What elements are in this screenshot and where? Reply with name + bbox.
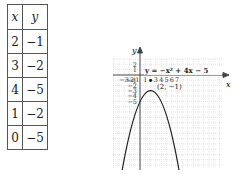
table-cell-y: −5 [23,78,48,102]
table-cell-x: 1 [8,102,23,126]
table-header-x: x [8,5,23,30]
table-cell-x: 4 [8,78,23,102]
table-row: 4 −5 [8,78,48,102]
table-row: 2 −1 [8,30,48,54]
svg-text:−5: −5 [127,98,137,106]
table-cell-y: −1 [23,30,48,54]
equation-label: y = −x² + 4x − 5 [144,66,208,75]
svg-text:1: 1 [143,76,147,84]
y-tick-labels: 2 1 −1 −2 −3 −4 −5 [127,61,137,106]
table-cell-x: 0 [8,126,23,150]
xy-value-table: x y 2 −1 3 −2 4 −5 1 −2 0 −5 [7,4,48,150]
vertex-point [149,79,152,82]
table-cell-x: 3 [8,54,23,78]
y-axis-label: y [131,46,137,55]
parabola-graph: x y −3 −2 −1 1 3 4 5 6 7 2 1 −1 −2 −3 −4… [95,40,233,178]
table-row: 0 −5 [8,126,48,150]
vertex-label: (2, −1) [157,83,182,91]
table-cell-y: −5 [23,126,48,150]
table-cell-y: −2 [23,54,48,78]
table-header-y: y [23,5,48,30]
table-row: 3 −2 [8,54,48,78]
svg-text:1: 1 [133,66,137,74]
table-row: 1 −2 [8,102,48,126]
table-cell-y: −2 [23,102,48,126]
x-axis-label: x [226,80,231,89]
table-cell-x: 2 [8,30,23,54]
